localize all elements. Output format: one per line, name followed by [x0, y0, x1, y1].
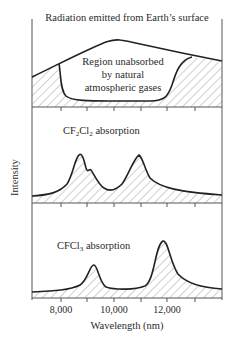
- x-axis-label: Wavelength (nm): [0, 320, 238, 331]
- panel1-title: Radiation emitted from Earth’s surface: [0, 12, 238, 23]
- y-axis-label: Intensity: [9, 156, 20, 200]
- annotation-line-2: by natural: [78, 68, 168, 81]
- annotation-line-3: atmospheric gases: [78, 81, 168, 94]
- cf2cl2-area: [32, 154, 222, 203]
- x-axis-ticks: [61, 298, 195, 302]
- label-part: CFCl: [57, 240, 80, 251]
- panel-cf2cl2: [32, 154, 222, 207]
- panel2-ticks: [61, 203, 195, 207]
- chart-canvas: [0, 0, 238, 351]
- label-part: absorption: [83, 240, 130, 251]
- panel1-ticks: [61, 107, 195, 111]
- annotation-line-1: Region unabsorbed: [78, 55, 168, 68]
- label-part: CF: [63, 125, 76, 136]
- cf2cl2-label: CF2Cl2 absorption: [63, 125, 140, 138]
- label-part: absorption: [93, 125, 140, 136]
- label-part: Cl: [79, 125, 89, 136]
- x-tick-label-12000: 12,000: [147, 304, 187, 315]
- unabsorbed-region-annotation: Region unabsorbed by natural atmospheric…: [78, 55, 168, 94]
- cfcl3-label: CFCl3 absorption: [57, 240, 130, 253]
- x-tick-label-8000: 8,000: [41, 304, 81, 315]
- x-tick-label-10000: 10,000: [94, 304, 134, 315]
